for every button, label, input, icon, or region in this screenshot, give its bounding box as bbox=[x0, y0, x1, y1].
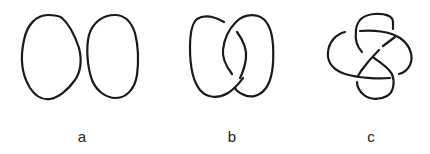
panel-a-unlink bbox=[22, 15, 138, 99]
hopf-inner-arc bbox=[237, 32, 246, 78]
panel-c-figure-eight-knot bbox=[328, 14, 412, 99]
fig8-diagonal-upper bbox=[383, 37, 395, 46]
panel-label-c: c bbox=[361, 128, 381, 145]
fig8-left-arc bbox=[328, 32, 390, 78]
hopf-left-under bbox=[223, 15, 273, 96]
unlink-right-loop bbox=[87, 15, 138, 98]
hopf-left-loop bbox=[190, 16, 243, 96]
panel-label-a: a bbox=[72, 128, 92, 145]
unlink-left-loop bbox=[22, 15, 81, 99]
panel-label-b: b bbox=[222, 128, 242, 145]
panel-b-hopf-link bbox=[190, 15, 273, 97]
fig8-diagonal bbox=[358, 50, 379, 76]
knot-figure: a b c bbox=[0, 0, 430, 154]
